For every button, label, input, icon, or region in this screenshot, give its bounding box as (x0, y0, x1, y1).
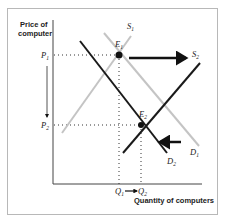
d1-label: D1 (189, 147, 199, 158)
equilibrium-point-e1 (116, 52, 123, 59)
s2-label: S2 (192, 49, 199, 60)
q1-label: Q1 (115, 186, 124, 197)
d2-label: D2 (166, 156, 176, 167)
e2-label: E2 (138, 109, 147, 120)
p2-label: P2 (40, 120, 49, 131)
supply-curve-s2 (123, 63, 200, 153)
x-axis-title: Quantity of computers (134, 196, 214, 205)
e1-label: E1 (114, 39, 123, 50)
supply-demand-diagram: Price of computer Quantity of computers … (0, 0, 226, 224)
y-axis-title-line1: Price of (20, 20, 48, 29)
supply-curve-s1 (62, 36, 131, 133)
y-axis-title-line2: computer (18, 29, 52, 38)
s1-label: S1 (127, 21, 134, 32)
q2-label: Q2 (138, 186, 147, 197)
equilibrium-point-e2 (138, 122, 144, 128)
p1-label: P1 (40, 50, 49, 61)
